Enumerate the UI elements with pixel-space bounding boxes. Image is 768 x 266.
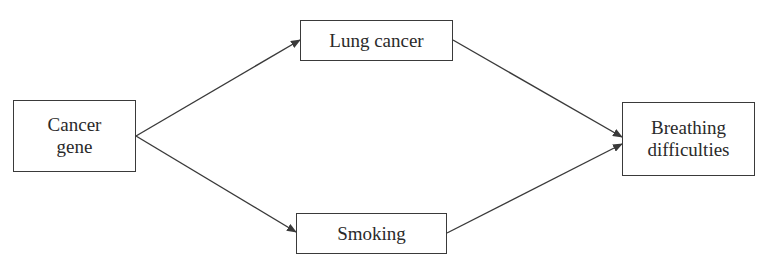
node-label: Cancer gene <box>48 114 102 158</box>
node-cancer-gene: Cancer gene <box>13 100 136 172</box>
node-label: Breathing difficulties <box>648 117 730 161</box>
node-breathing-difficulties: Breathing difficulties <box>622 102 755 176</box>
node-label: Smoking <box>337 223 406 245</box>
edge-cancer-gene-to-lung-cancer <box>136 40 300 136</box>
edge-lung-cancer-to-breathing <box>453 40 622 137</box>
node-lung-cancer: Lung cancer <box>300 20 453 61</box>
edge-cancer-gene-to-smoking <box>136 136 296 232</box>
node-smoking: Smoking <box>296 213 447 254</box>
node-label: Lung cancer <box>329 30 423 52</box>
edge-smoking-to-breathing <box>447 144 622 233</box>
